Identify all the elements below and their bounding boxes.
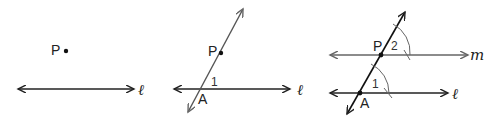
transversal (188, 9, 243, 112)
point-a-label: A (198, 91, 208, 107)
panel-step-1: P ℓ (18, 42, 144, 99)
transversal (347, 12, 405, 114)
parallel-construction-diagram: P ℓ ℓ P A 1 m ℓ P 2 1 A (0, 0, 485, 124)
angle-2-label: 2 (391, 39, 398, 53)
point-p (219, 51, 223, 55)
line-l-label: ℓ (452, 85, 458, 103)
angle-1-label: 1 (211, 75, 218, 89)
point-p (64, 49, 68, 53)
point-a-label: A (360, 95, 370, 111)
line-m-label: m (470, 46, 484, 64)
point-p-label: P (51, 42, 60, 58)
point-p-label: P (208, 43, 217, 59)
panel-step-2: ℓ P A 1 (174, 9, 303, 112)
line-l-label: ℓ (297, 81, 303, 99)
line-l-label: ℓ (138, 81, 144, 99)
angle-1-label: 1 (372, 77, 379, 91)
panel-step-3: m ℓ P 2 1 A (330, 12, 484, 114)
point-p-label: P (373, 38, 382, 54)
